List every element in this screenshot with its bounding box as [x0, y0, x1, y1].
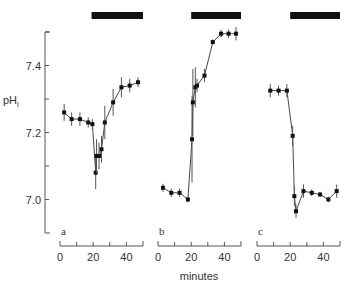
ph-chart: 7.07.27.4 pHi 02040a02040b02040c minutes [0, 0, 351, 290]
y-axis: 7.07.27.4 [26, 32, 50, 233]
panel-a: 02040a [57, 12, 143, 263]
data-point [86, 120, 90, 124]
data-point [169, 191, 173, 195]
data-point [70, 117, 74, 121]
x-tick-label: 0 [254, 251, 260, 263]
data-point [318, 192, 322, 196]
x-tick-label: 20 [284, 251, 296, 263]
series-line [163, 34, 236, 200]
data-point [219, 32, 223, 36]
x-tick-label: 20 [185, 251, 197, 263]
y-axis-label-text: pHi [3, 94, 19, 109]
data-point [191, 100, 195, 104]
data-point [161, 186, 165, 190]
data-point [234, 32, 238, 36]
data-point [294, 209, 298, 213]
data-point [310, 191, 314, 195]
data-point [97, 154, 101, 158]
data-point [119, 85, 123, 89]
treatment-bar [92, 12, 143, 19]
data-point [211, 40, 215, 44]
data-point [103, 120, 107, 124]
panel-b: 02040b [155, 12, 241, 263]
data-point [111, 100, 115, 104]
data-point [90, 122, 94, 126]
panels: 02040a02040b02040c [57, 12, 340, 263]
panel-label: b [159, 225, 165, 237]
x-tick-label: 0 [57, 251, 63, 263]
data-point [190, 137, 194, 141]
y-tick-label: 7.2 [26, 127, 41, 139]
x-tick-label: 0 [155, 251, 161, 263]
data-point [62, 110, 66, 114]
data-point [94, 171, 98, 175]
data-point [326, 198, 330, 202]
y-axis-label: pHi [3, 94, 19, 109]
y-tick-label: 7.4 [26, 60, 41, 72]
x-tick-label: 40 [120, 251, 132, 263]
data-point [291, 134, 295, 138]
data-point [186, 198, 190, 202]
y-tick-label: 7.0 [26, 194, 41, 206]
data-point [277, 89, 281, 93]
treatment-bar [191, 12, 241, 19]
data-point [227, 32, 231, 36]
data-point [178, 191, 182, 195]
data-point [100, 147, 104, 151]
data-point [136, 80, 140, 84]
panel-c: 02040c [254, 12, 340, 263]
treatment-bar [290, 12, 340, 19]
data-point [78, 117, 82, 121]
data-point [202, 74, 206, 78]
x-tick-label: 20 [87, 251, 99, 263]
panel-label: a [61, 225, 66, 237]
data-point [292, 194, 296, 198]
data-point [268, 89, 272, 93]
panel-label: c [258, 225, 263, 237]
x-tick-label: 40 [218, 251, 230, 263]
data-point [195, 84, 199, 88]
data-point [128, 84, 132, 88]
x-tick-label: 40 [317, 251, 329, 263]
data-point [335, 189, 339, 193]
x-axis-label: minutes [180, 270, 219, 282]
data-point [285, 89, 289, 93]
data-point [301, 189, 305, 193]
